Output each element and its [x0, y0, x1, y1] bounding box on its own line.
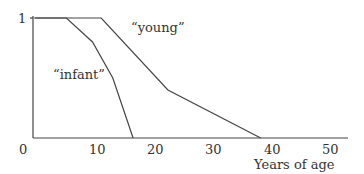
- series-label-infant: “infant”: [53, 68, 105, 81]
- x-tick-label-0: 0: [19, 143, 27, 156]
- x-tick-label-20: 20: [147, 143, 164, 156]
- x-axis-title: Years of age: [254, 158, 334, 171]
- x-tick-label-10: 10: [89, 143, 106, 156]
- y-tick-label-1: 1: [18, 12, 26, 25]
- x-tick-label-30: 30: [205, 143, 222, 156]
- x-tick-label-50: 50: [322, 143, 339, 156]
- x-tick-label-40: 40: [264, 143, 281, 156]
- series-label-young: “young”: [131, 21, 185, 34]
